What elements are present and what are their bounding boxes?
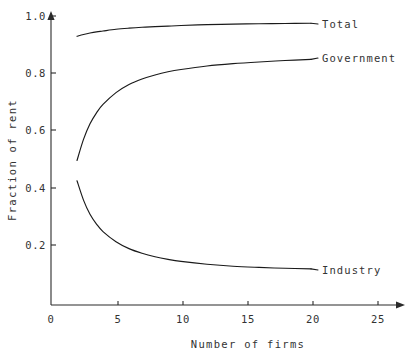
series-label-government: Government bbox=[322, 52, 396, 64]
y-tick-label: 0.2 bbox=[25, 239, 46, 251]
x-tick-label: 10 bbox=[176, 313, 190, 325]
data-curves bbox=[77, 23, 318, 270]
curve-industry bbox=[77, 181, 311, 269]
curve-total bbox=[77, 23, 311, 36]
x-axis-title: Number of firms bbox=[191, 338, 305, 350]
y-axis-title: Fraction of rent bbox=[6, 99, 18, 221]
x-tick-label: 25 bbox=[371, 313, 385, 325]
y-axis-ticks bbox=[51, 16, 56, 245]
y-tick-label: 0.4 bbox=[25, 182, 46, 194]
chart-page: 1.0 0.8 0.6 0.4 0.2 0 5 10 15 20 25 bbox=[0, 0, 418, 360]
y-tick-label: 0.8 bbox=[25, 67, 46, 79]
x-tick-label: 5 bbox=[115, 313, 122, 325]
x-tick-label: 0 bbox=[48, 313, 55, 325]
x-axis-ticks bbox=[118, 301, 378, 305]
leader-line-industry bbox=[311, 269, 318, 270]
leader-line-government bbox=[311, 58, 318, 59]
y-tick-label: 0.6 bbox=[25, 124, 46, 136]
curve-government bbox=[77, 59, 311, 160]
leader-line-total bbox=[311, 23, 318, 24]
x-axis-arrow-icon bbox=[396, 302, 405, 309]
series-label-industry: Industry bbox=[322, 264, 381, 276]
x-axis-tick-labels: 0 5 10 15 20 25 bbox=[48, 313, 385, 325]
y-tick-label: 1.0 bbox=[25, 10, 46, 22]
line-chart: 1.0 0.8 0.6 0.4 0.2 0 5 10 15 20 25 bbox=[0, 0, 418, 360]
x-tick-label: 15 bbox=[241, 313, 255, 325]
series-label-total: Total bbox=[322, 18, 359, 30]
x-tick-label: 20 bbox=[306, 313, 320, 325]
y-axis-tick-labels: 1.0 0.8 0.6 0.4 0.2 bbox=[25, 10, 46, 251]
